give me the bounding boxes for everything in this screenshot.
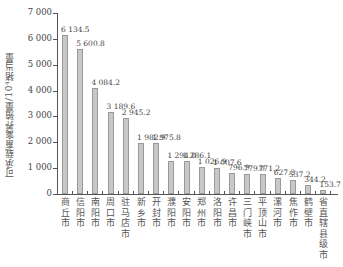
x-tick-label: 新乡市 [135, 197, 147, 229]
x-tick-label: 平顶山市 [257, 197, 269, 239]
bar-value-label: 2 945.2 [122, 108, 151, 117]
x-tick-label: 省直辖县级市 [317, 197, 329, 260]
bar [62, 35, 68, 194]
x-tick-label: 郑州市 [196, 197, 208, 229]
bar [305, 185, 311, 194]
y-tick-label: 6 000 [18, 33, 52, 43]
bar [92, 88, 98, 194]
y-tick-label: 1 000 [18, 162, 52, 172]
y-axis-label: 可承载畜禽养殖量/10⁴猪当量 [2, 40, 16, 190]
x-tick-label: 开封市 [150, 197, 162, 229]
y-axis-line [57, 13, 58, 194]
x-tick-mark [270, 191, 271, 194]
x-tick-mark [102, 191, 103, 194]
y-tick-label: 0 [18, 188, 52, 198]
y-tick-mark [53, 142, 57, 143]
x-tick-label: 南阳市 [89, 197, 101, 229]
y-tick-mark [53, 65, 57, 66]
y-tick-mark [53, 91, 57, 92]
y-tick-label: 7 000 [18, 7, 52, 17]
x-tick-mark [72, 191, 73, 194]
x-tick-mark [118, 191, 119, 194]
bar-value-label: 4 084.2 [91, 78, 120, 87]
bar-value-label: 6 134.5 [61, 25, 90, 34]
bar [77, 49, 83, 194]
y-tick-mark [53, 116, 57, 117]
x-tick-mark [148, 191, 149, 194]
x-tick-label: 焦作市 [287, 197, 299, 229]
x-tick-mark [285, 191, 286, 194]
bar-value-label: 153.7 [319, 180, 340, 189]
bar [214, 168, 220, 194]
bar [260, 174, 266, 194]
x-tick-mark [239, 191, 240, 194]
bar [184, 161, 190, 194]
x-tick-mark [194, 191, 195, 194]
x-tick-mark [87, 191, 88, 194]
x-tick-mark [300, 191, 301, 194]
bar [229, 173, 235, 194]
x-tick-label: 安阳市 [181, 197, 193, 229]
bar [108, 112, 114, 194]
x-tick-mark [315, 191, 316, 194]
x-tick-mark [133, 191, 134, 194]
bar [138, 143, 144, 194]
bar [290, 180, 296, 194]
x-tick-mark [163, 191, 164, 194]
bar-value-label: 5 600.8 [76, 39, 105, 48]
bar-value-label: 1 975.8 [152, 133, 181, 142]
x-tick-label: 驻马店市 [120, 197, 132, 239]
x-axis-line [57, 194, 338, 195]
x-tick-label: 濮阳市 [165, 197, 177, 229]
x-tick-label: 鹤壁市 [302, 197, 314, 229]
bar [199, 167, 205, 194]
y-tick-mark [53, 39, 57, 40]
y-tick-mark [53, 194, 57, 195]
x-tick-label: 商丘市 [59, 197, 71, 229]
y-tick-label: 3 000 [18, 110, 52, 120]
x-tick-mark [178, 191, 179, 194]
bar [275, 178, 281, 194]
x-tick-label: 信阳市 [74, 197, 86, 229]
x-tick-mark [224, 191, 225, 194]
bar [320, 190, 326, 194]
x-tick-mark [254, 191, 255, 194]
x-tick-label: 漯河市 [272, 197, 284, 229]
y-tick-mark [53, 168, 57, 169]
x-tick-label: 周口市 [105, 197, 117, 229]
bar-chart: 可承载畜禽养殖量/10⁴猪当量 01 0002 0003 0004 0005 0… [0, 0, 343, 267]
y-tick-label: 4 000 [18, 85, 52, 95]
y-tick-label: 5 000 [18, 59, 52, 69]
y-tick-label: 2 000 [18, 136, 52, 146]
y-tick-mark [53, 13, 57, 14]
x-tick-label: 三门峡市 [241, 197, 253, 239]
bar [153, 143, 159, 194]
x-tick-mark [330, 191, 331, 194]
x-tick-mark [209, 191, 210, 194]
x-tick-label: 许昌市 [226, 197, 238, 229]
bar [123, 118, 129, 194]
x-tick-label: 洛阳市 [211, 197, 223, 229]
bar [244, 174, 250, 194]
bar [168, 161, 174, 194]
